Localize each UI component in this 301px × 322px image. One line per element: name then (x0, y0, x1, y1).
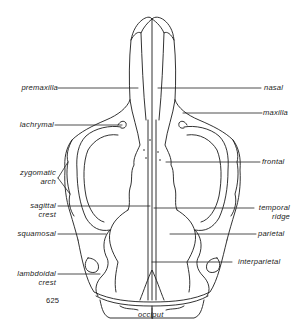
label-lambdoidal-crest-2: crest (6, 279, 56, 287)
label-sagittal-crest-2: crest (12, 211, 56, 219)
label-nasal: nasal (264, 84, 283, 92)
label-squamosal: squamosal (8, 230, 56, 238)
label-lachrymal: lachrymal (12, 121, 54, 129)
label-temporal-ridge-2: ridge (246, 213, 290, 221)
label-interparietal: interparietal (238, 258, 280, 266)
label-zygomatic-arch-1: zygomatic (12, 169, 56, 177)
rostrum-outline (129, 17, 175, 300)
label-parietal: parietal (258, 230, 285, 238)
label-zygomatic-arch-2: arch (12, 178, 56, 186)
skull-diagram-figure: premaxilla nasal lachrymal maxilla zygom… (0, 0, 301, 322)
label-temporal-ridge-1: temporal (246, 204, 290, 212)
figure-number: 625 (46, 297, 59, 305)
label-frontal: frontal (262, 158, 285, 166)
occipital-region (78, 240, 227, 318)
label-lambdoidal-crest-1: lambdoidal (6, 270, 56, 278)
label-occiput: occiput (138, 311, 163, 319)
leader-lines (55, 88, 262, 318)
braincase (85, 210, 220, 300)
leader-zygomatic-a (58, 162, 68, 178)
label-premaxilla: premaxilla (18, 84, 58, 92)
label-sagittal-crest-1: sagittal (12, 202, 56, 210)
skull-outline (65, 100, 241, 240)
label-maxilla: maxilla (263, 109, 288, 117)
